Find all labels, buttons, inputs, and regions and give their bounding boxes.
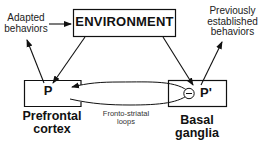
loop-upper-arc (72, 82, 190, 93)
previous-behaviors-label: Previously established behaviors (205, 6, 260, 38)
adapted-line1: Adapted (3, 13, 49, 24)
loops-line2: loops (100, 118, 152, 126)
environment-label: ENVIRONMENT (73, 15, 176, 29)
loop-lower-arc (70, 93, 190, 105)
adapted-line2: behaviors (3, 24, 49, 35)
arrow-p-prime-to-previous (201, 42, 222, 85)
p-node-label: P (40, 84, 56, 98)
prefrontal-cortex-label: Prefrontal cortex (16, 110, 88, 136)
basal-ganglia-label: Basal ganglia (167, 114, 227, 140)
previous-line1: Previously (205, 6, 260, 17)
prefrontal-line2: cortex (16, 123, 88, 136)
arrow-environment-to-p-prime (163, 37, 193, 85)
basal-line2: ganglia (167, 127, 227, 140)
diagram-canvas: ENVIRONMENT Adapted behaviors Previously… (0, 0, 260, 147)
arrow-environment-to-p (53, 37, 85, 83)
fronto-striatal-loops-label: Fronto-striatal loops (100, 110, 152, 126)
adapted-behaviors-label: Adapted behaviors (3, 13, 49, 34)
p-prime-node-label: P' (197, 86, 215, 100)
previous-line3: behaviors (205, 27, 260, 38)
arrow-p-to-adapted (27, 40, 44, 83)
